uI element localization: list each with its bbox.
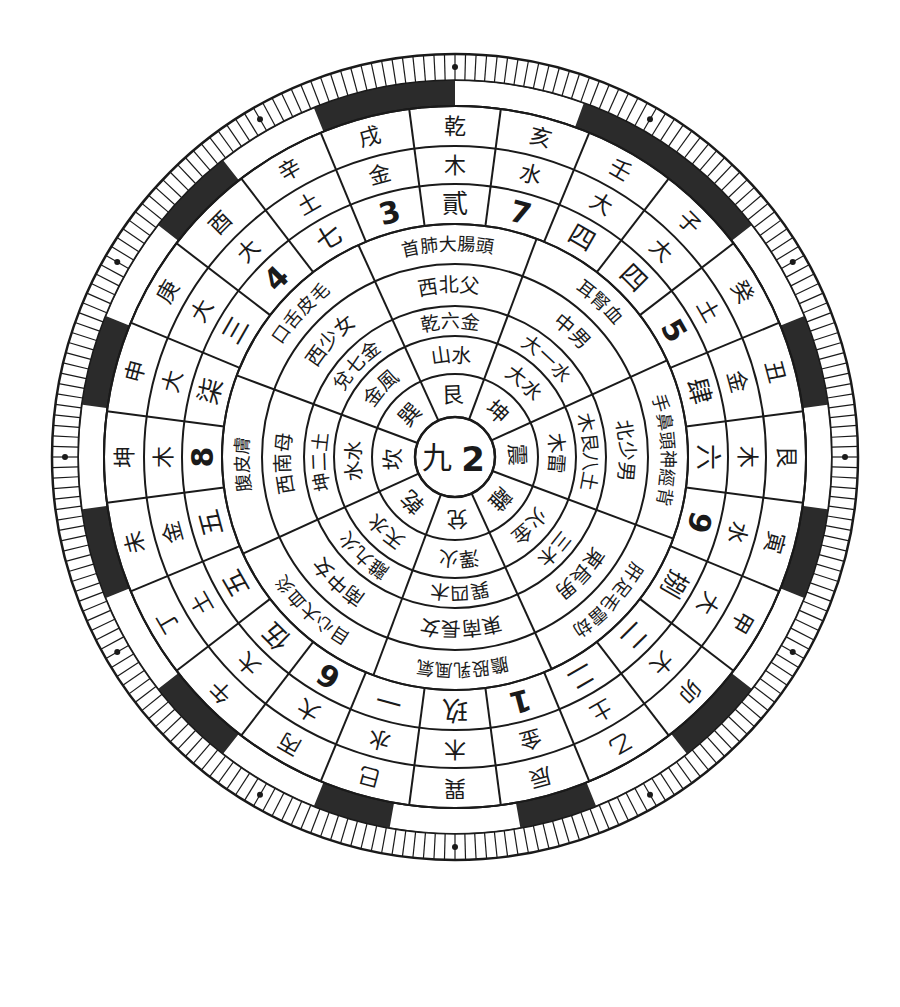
ring6-cell-label: 三	[216, 312, 255, 350]
tick-mark	[599, 805, 609, 829]
tick-mark	[201, 144, 217, 164]
tick-mark	[101, 637, 124, 649]
tick-mark	[163, 180, 182, 198]
tick-mark	[799, 610, 823, 621]
ring5-cell-label: 神	[657, 450, 678, 468]
ring6-cell-label: 1	[506, 682, 535, 721]
center-label-right: 2	[461, 439, 485, 479]
tick-mark	[626, 98, 638, 121]
tick-mark	[831, 477, 857, 478]
ring5-cell-label: 膽	[489, 653, 511, 677]
tick-mark	[218, 762, 233, 783]
tick-mark	[413, 56, 416, 82]
tick-mark	[494, 56, 497, 82]
tick-mark	[210, 756, 226, 777]
tick-dot	[114, 649, 120, 655]
tick-mark	[728, 180, 747, 198]
tick-mark	[700, 151, 717, 171]
tick-mark	[830, 496, 856, 499]
ring6-cell-label: 3	[375, 193, 404, 232]
tick-mark	[707, 737, 724, 756]
tick-mark	[735, 709, 754, 726]
tick-mark	[807, 592, 831, 601]
tick-mark	[320, 77, 329, 102]
ring7-cell-label: 水	[366, 724, 394, 754]
tick-mark	[831, 436, 857, 437]
ring3-cell-label: 金	[460, 310, 481, 334]
tick-mark	[742, 702, 762, 719]
tick-mark	[504, 57, 507, 83]
ring8-cell-label: 卯	[672, 674, 705, 707]
ring8-cell-label: 申	[120, 357, 150, 385]
tick-mark	[543, 824, 549, 849]
ring2-cell-label: 澤	[457, 545, 480, 572]
tick-mark	[413, 832, 416, 858]
ring4-cell-label: 母	[271, 431, 297, 453]
tick-mark	[715, 730, 733, 749]
tick-mark	[814, 332, 839, 340]
tick-mark	[87, 293, 111, 304]
tick-mark	[142, 694, 162, 710]
tick-dot	[790, 649, 796, 655]
tick-mark	[59, 384, 85, 389]
outer-spoke	[409, 688, 424, 805]
tick-mark	[291, 801, 302, 825]
tick-mark	[201, 750, 217, 770]
tick-mark	[83, 601, 107, 611]
tick-mark	[803, 303, 827, 313]
tick-mark	[786, 265, 809, 277]
ring1-cell-label: 艮	[441, 383, 464, 409]
tick-mark	[742, 195, 762, 212]
tick-mark	[244, 113, 258, 135]
tick-mark	[117, 238, 139, 252]
ring3-cell-label: 六	[440, 310, 460, 333]
tick-mark	[53, 487, 79, 489]
ring3-cell-label: 二	[308, 452, 331, 472]
tick-mark	[227, 125, 242, 146]
tick-mark	[754, 687, 775, 703]
tick-mark	[63, 545, 88, 551]
tick-mark	[79, 313, 103, 322]
ring2-cell-label: 水	[341, 459, 368, 482]
ring8-cell-label: 辰	[527, 762, 555, 792]
tick-mark	[66, 353, 91, 360]
tick-mark	[766, 229, 787, 244]
tick-mark	[590, 809, 599, 833]
tick-mark	[444, 54, 445, 80]
tick-mark	[819, 555, 844, 562]
ring5-cell-label: 氣	[414, 656, 435, 679]
ring8-cell-label: 艮	[774, 446, 799, 468]
ring5-cell-label: 腸	[457, 233, 476, 255]
tick-mark	[533, 826, 538, 851]
tick-mark	[514, 829, 518, 855]
tick-mark	[54, 496, 80, 499]
ring4-cell-label: 南	[271, 453, 296, 474]
tick-mark	[117, 662, 139, 676]
ring1-cell-label: 坎	[381, 448, 407, 471]
tick-mark	[236, 773, 250, 795]
ring8-cell-label: 壬	[605, 154, 637, 187]
tick-mark	[351, 821, 358, 846]
tick-mark	[53, 436, 79, 437]
tick-mark	[766, 671, 787, 686]
tick-mark	[111, 654, 133, 668]
tick-mark	[91, 284, 114, 295]
ring4-cell-label: 男	[614, 461, 640, 483]
tick-mark	[571, 74, 579, 99]
ring7-cell-label: 水	[517, 160, 545, 190]
tick-mark	[371, 826, 376, 851]
ring7-cell-label: 大	[158, 368, 188, 396]
tick-mark	[830, 415, 856, 418]
ring1-cell-label: 離	[483, 482, 516, 515]
tick-mark	[819, 353, 844, 360]
tick-mark	[829, 404, 855, 407]
tick-mark	[149, 195, 169, 212]
ring5-cell-label: 乳	[453, 659, 472, 681]
tick-mark	[581, 812, 590, 837]
tick-mark	[829, 506, 855, 509]
ring7-cell-label: 大	[645, 234, 678, 267]
tick-mark	[608, 801, 619, 825]
tick-dot	[114, 259, 120, 265]
tick-mark	[722, 172, 740, 190]
ring2-cell-label: 水	[451, 343, 473, 368]
